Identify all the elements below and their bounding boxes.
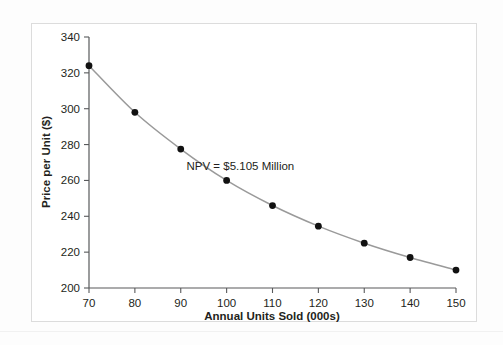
y-tick-label: 300 bbox=[61, 103, 80, 115]
x-tick-label: 130 bbox=[355, 297, 374, 309]
x-axis-title: Annual Units Sold (000s) bbox=[204, 310, 340, 322]
y-tick-label: 340 bbox=[61, 31, 80, 43]
x-tick-label: 90 bbox=[174, 297, 187, 309]
x-axis-ticks: 708090100110120130140150 bbox=[83, 288, 466, 309]
data-point-marker bbox=[86, 62, 93, 69]
x-tick-label: 110 bbox=[263, 297, 281, 309]
line-chart: 200220240260280300320340 708090100110120… bbox=[32, 24, 478, 323]
figure-frame: 200220240260280300320340 708090100110120… bbox=[31, 23, 477, 322]
x-tick-label: 80 bbox=[128, 297, 141, 309]
data-point-marker bbox=[315, 223, 322, 230]
y-tick-label: 320 bbox=[61, 67, 80, 79]
x-tick-label: 140 bbox=[401, 297, 420, 309]
data-point-marker bbox=[177, 146, 184, 153]
data-point-marker bbox=[407, 254, 414, 261]
data-point-marker bbox=[453, 267, 460, 274]
y-axis-title: Price per Unit ($) bbox=[40, 116, 52, 208]
data-point-marker bbox=[269, 202, 276, 209]
page-rule-divider bbox=[0, 331, 503, 332]
x-tick-label: 100 bbox=[217, 297, 236, 309]
data-point-marker bbox=[223, 177, 230, 184]
data-point-marker bbox=[131, 109, 138, 116]
data-point-marker bbox=[361, 240, 368, 247]
x-tick-label: 150 bbox=[446, 297, 465, 309]
chart-annotations: NPV = $5.105 Million bbox=[187, 160, 295, 172]
y-axis-ticks: 200220240260280300320340 bbox=[61, 31, 89, 294]
x-tick-label: 120 bbox=[309, 297, 328, 309]
y-tick-label: 200 bbox=[61, 282, 80, 294]
y-tick-label: 260 bbox=[61, 174, 80, 186]
chart-annotation-label: NPV = $5.105 Million bbox=[187, 160, 295, 172]
y-tick-label: 280 bbox=[61, 139, 80, 151]
chart-plot-area: 200220240260280300320340 708090100110120… bbox=[32, 24, 478, 323]
x-tick-label: 70 bbox=[83, 297, 96, 309]
y-tick-label: 240 bbox=[61, 210, 80, 222]
y-tick-label: 220 bbox=[61, 246, 80, 258]
